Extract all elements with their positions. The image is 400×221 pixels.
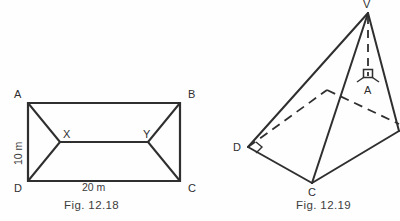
vertex-label-d-pyramid: D: [233, 141, 241, 153]
pyramid-hidden-edges: [248, 90, 399, 147]
vertex-label-c-pyramid: C: [308, 186, 316, 198]
figure-caption-right: Fig. 12.19: [296, 199, 351, 211]
dimension-label-height: 10 m: [12, 142, 24, 165]
figure-page: A B C D X Y V A C: [0, 0, 400, 221]
dimension-label-width: 20 m: [82, 181, 105, 193]
angle-chevron-d: [256, 142, 262, 153]
vertex-label-a-apex-foot: A: [364, 84, 372, 96]
edge-d-f-hidden: [248, 90, 327, 147]
figure-caption-left: Fig. 12.18: [64, 199, 119, 211]
right-angle-tick-right: [373, 78, 380, 83]
right-angle-tick-left: [357, 78, 364, 83]
edge-d-c: [248, 147, 312, 183]
angle-marker-at-d: [256, 142, 262, 153]
edge-c-e: [312, 131, 399, 183]
vertex-label-v: V: [363, 0, 371, 10]
figure-12-19-drawing: V A C D: [0, 0, 400, 221]
edge-v-c: [312, 13, 368, 183]
edge-v-d: [248, 13, 368, 147]
pyramid-solid-edges: [248, 13, 399, 183]
